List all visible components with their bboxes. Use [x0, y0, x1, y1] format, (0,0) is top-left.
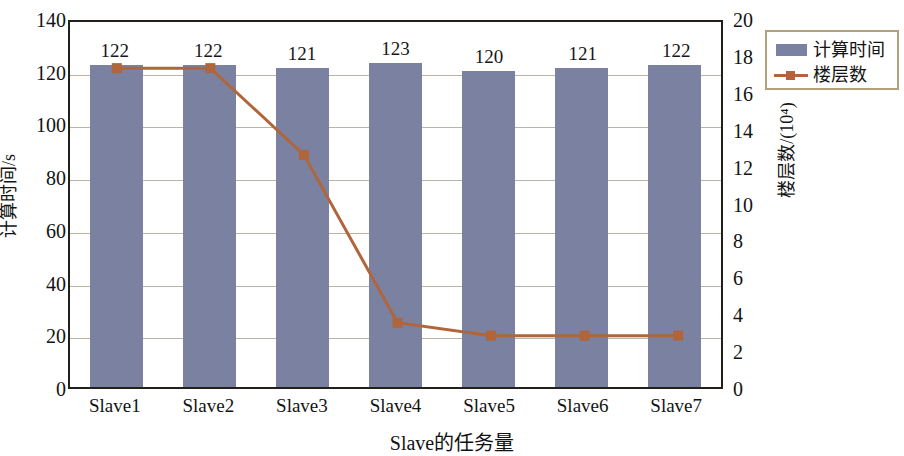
y-tick-left: 0 [14, 379, 66, 399]
line-marker [299, 150, 309, 160]
y-tick-right: 6 [733, 268, 763, 288]
y-tick-right: 2 [733, 342, 763, 362]
x-tick-label: Slave6 [557, 396, 609, 416]
y-tick-right: 0 [733, 379, 763, 399]
y-tick-right: 16 [733, 84, 763, 104]
y-tick-left: 100 [14, 115, 66, 135]
line-marker [486, 331, 496, 341]
x-tick-label: Slave3 [276, 396, 328, 416]
y-tick-right: 8 [733, 231, 763, 251]
legend-item-line: 楼层数 [774, 62, 891, 87]
bar-value-label: 122 [101, 41, 130, 60]
y-tick-right: 4 [733, 305, 763, 325]
y-tick-right: 18 [733, 47, 763, 67]
chart-legend: 计算时间 楼层数 [765, 30, 899, 90]
bar-value-label: 123 [381, 39, 410, 58]
line-marker [580, 331, 590, 341]
chart-figure: 122122121123120121122 020406080100120140… [0, 0, 904, 456]
y-axis-left-title: 计算时间/s [0, 106, 20, 286]
y-tick-right: 10 [733, 195, 763, 215]
bar-value-label: 120 [475, 47, 504, 66]
plot-area [68, 20, 723, 389]
y-tick-left: 20 [14, 326, 66, 346]
line-path [117, 68, 678, 336]
bar-value-label: 122 [662, 41, 691, 60]
bar-value-label: 121 [288, 44, 317, 63]
line-marker [205, 63, 215, 73]
y-tick-left: 120 [14, 63, 66, 83]
y-tick-left: 80 [14, 168, 66, 188]
line-marker-icon [774, 65, 808, 85]
y-tick-left: 60 [14, 221, 66, 241]
bar-value-label: 122 [194, 41, 223, 60]
legend-item-bar: 计算时间 [774, 37, 891, 62]
y-tick-left: 40 [14, 274, 66, 294]
x-tick-label: Slave2 [182, 396, 234, 416]
y-tick-right: 14 [733, 121, 763, 141]
y-tick-left: 140 [14, 10, 66, 30]
legend-label-line: 楼层数 [813, 65, 867, 85]
bar-swatch-icon [774, 40, 808, 60]
y-tick-right: 12 [733, 158, 763, 178]
y-tick-right: 20 [733, 10, 763, 30]
x-axis-title: Slave的任务量 [0, 427, 904, 456]
x-tick-label: Slave1 [89, 396, 141, 416]
x-tick-label: Slave4 [370, 396, 422, 416]
line-marker [673, 331, 683, 341]
bar-value-label: 121 [568, 44, 597, 63]
x-tick-label: Slave7 [650, 396, 702, 416]
x-tick-label: Slave5 [463, 396, 515, 416]
legend-label-bar: 计算时间 [813, 40, 885, 60]
line-marker [112, 63, 122, 73]
line-marker [393, 318, 403, 328]
line-series [70, 22, 725, 391]
